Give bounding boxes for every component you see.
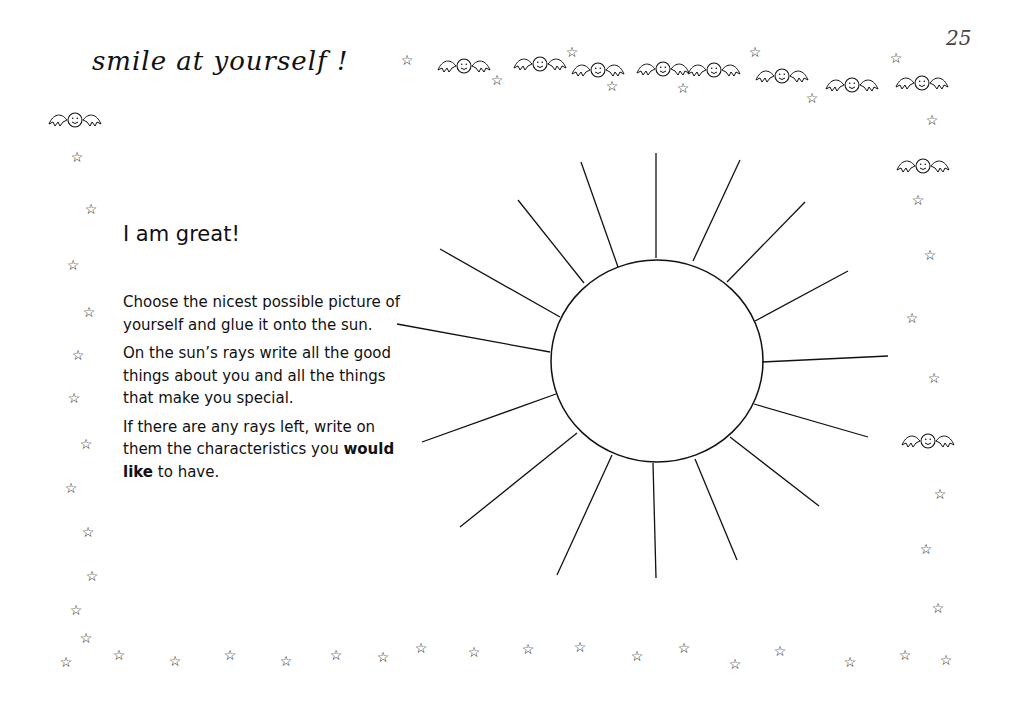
star-icon: ☆ [83,304,96,320]
sun-ray [653,463,656,578]
star-icon: ☆ [677,80,690,96]
winged-smiley-icon [514,57,566,71]
decorations: ☆☆☆☆☆☆☆☆☆☆☆☆☆☆☆☆☆☆☆☆☆☆☆☆☆☆☆☆☆☆☆☆☆☆☆☆☆☆☆☆… [0,0,1019,717]
sun-ray [440,249,560,317]
star-icon: ☆ [113,647,126,663]
star-icon: ☆ [82,524,95,540]
winged-smiley-icon [897,159,949,173]
star-icon: ☆ [912,192,925,208]
star-icon: ☆ [72,347,85,363]
star-icon: ☆ [924,247,937,263]
star-icon: ☆ [774,643,787,659]
star-icon: ☆ [899,647,912,663]
winged-smiley-icon [572,63,624,77]
star-icon: ☆ [890,50,903,66]
sun-illustration [397,153,888,578]
star-icon: ☆ [169,653,182,669]
star-icon: ☆ [678,640,691,656]
star-icon: ☆ [920,541,933,557]
winged-smiley-icon [896,76,948,90]
star-icon: ☆ [729,656,742,672]
star-icon: ☆ [377,649,390,665]
star-icon: ☆ [932,600,945,616]
star-icon: ☆ [280,653,293,669]
star-icon: ☆ [928,370,941,386]
star-icon: ☆ [330,647,343,663]
star-icon: ☆ [71,149,84,165]
star-icon: ☆ [67,257,80,273]
star-icon: ☆ [401,52,414,68]
star-icon: ☆ [60,654,73,670]
sun-ray [693,160,740,261]
sun-ray [460,433,577,527]
star-icon: ☆ [631,648,644,664]
star-icon: ☆ [85,201,98,217]
angel-border [49,57,954,448]
sun-ray [557,455,612,575]
sun-ray [754,404,868,437]
star-icon: ☆ [606,78,619,94]
star-icon: ☆ [468,644,481,660]
sun-ray [518,200,584,283]
sun-ray [397,324,550,352]
winged-smiley-icon [688,63,740,77]
star-icon: ☆ [522,641,535,657]
star-icon: ☆ [415,640,428,656]
sun-ray [695,459,737,560]
star-icon: ☆ [80,630,93,646]
star-icon: ☆ [70,602,83,618]
sun-ray [755,271,848,321]
sun-ray [727,202,805,282]
sun-ray [762,356,888,362]
star-icon: ☆ [491,72,504,88]
star-border: ☆☆☆☆☆☆☆☆☆☆☆☆☆☆☆☆☆☆☆☆☆☆☆☆☆☆☆☆☆☆☆☆☆☆☆☆☆☆☆☆… [60,44,953,672]
star-icon: ☆ [574,639,587,655]
winged-smiley-icon [438,59,490,73]
winged-smiley-icon [826,78,878,92]
star-icon: ☆ [86,568,99,584]
star-icon: ☆ [934,486,947,502]
star-icon: ☆ [566,44,579,60]
star-icon: ☆ [224,647,237,663]
winged-smiley-icon [756,69,808,83]
star-icon: ☆ [749,44,762,60]
star-icon: ☆ [844,654,857,670]
star-icon: ☆ [926,112,939,128]
sun-ray [730,437,819,506]
sun-ray [581,162,618,267]
star-icon: ☆ [906,310,919,326]
winged-smiley-icon [902,434,954,448]
star-icon: ☆ [80,436,93,452]
star-icon: ☆ [806,90,819,106]
star-icon: ☆ [68,390,81,406]
winged-smiley-icon [49,113,101,127]
star-icon: ☆ [65,480,78,496]
sun-circle [551,260,763,462]
star-icon: ☆ [940,652,953,668]
sun-ray [422,394,556,442]
winged-smiley-icon [637,62,689,76]
